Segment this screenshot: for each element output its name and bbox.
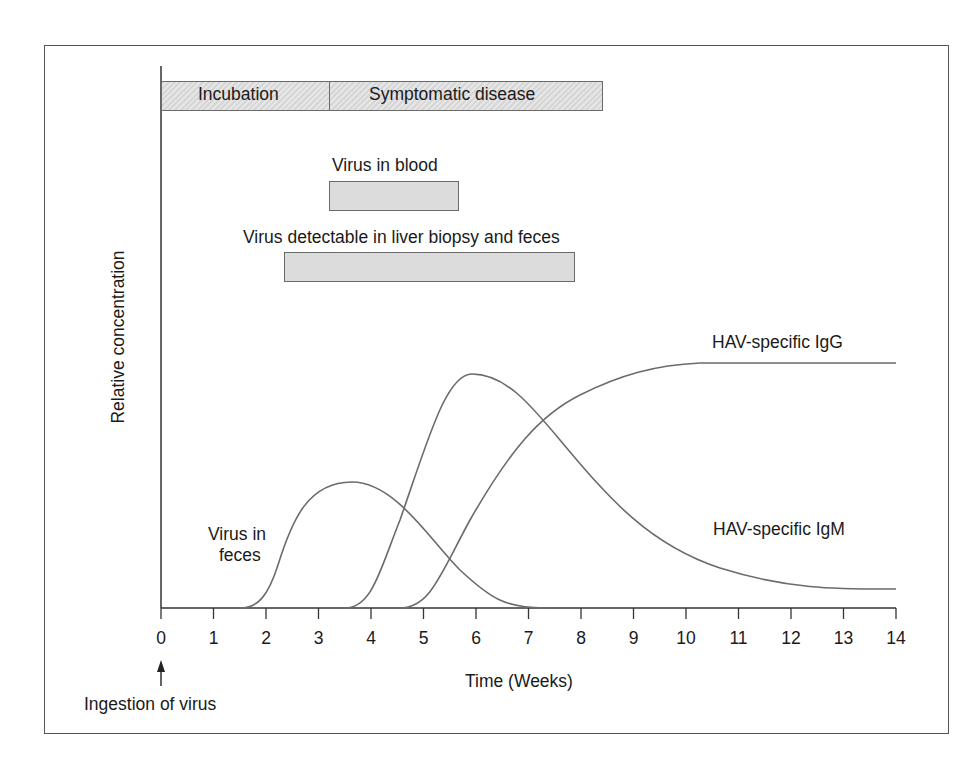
chart-canvas <box>0 0 979 763</box>
symptomatic-disease-label: Symptomatic disease <box>369 86 535 104</box>
virus-in-feces-curve <box>240 482 545 608</box>
x-tick-label: 11 <box>729 630 747 648</box>
x-tick-label: 14 <box>886 630 905 648</box>
virus-in-feces-label-line2: feces <box>219 547 261 565</box>
x-tick-label: 9 <box>629 630 639 648</box>
igm-curve <box>345 374 896 608</box>
x-tick-label: 1 <box>209 630 219 648</box>
virus-in-blood-label: Virus in blood <box>332 157 438 175</box>
x-tick-label: 4 <box>366 630 376 648</box>
x-tick-label: 8 <box>576 630 586 648</box>
incubation-label: Incubation <box>198 86 279 104</box>
x-axis-label: Time (Weeks) <box>465 673 573 691</box>
igm-label: HAV-specific IgM <box>713 521 845 539</box>
x-tick-label: 3 <box>314 630 324 648</box>
x-tick-label: 10 <box>676 630 695 648</box>
virus-in-feces-label-line1: Virus in <box>208 526 266 544</box>
ingestion-arrow-icon <box>157 660 165 672</box>
x-tick-label: 2 <box>261 630 271 648</box>
x-tick-label: 13 <box>834 630 853 648</box>
ingestion-label: Ingestion of virus <box>84 696 216 714</box>
x-tick-label: 5 <box>419 630 429 648</box>
x-tick-label: 7 <box>524 630 534 648</box>
y-axis-label: Relative concentration <box>108 250 129 423</box>
x-tick-label: 0 <box>156 630 166 648</box>
liver-biopsy-feces-label: Virus detectable in liver biopsy and fec… <box>243 229 560 247</box>
igg-label: HAV-specific IgG <box>712 334 843 352</box>
x-axis-ticks <box>161 608 896 619</box>
liver-biopsy-feces-bar <box>284 252 575 282</box>
igg-curve <box>400 363 896 608</box>
x-tick-label: 6 <box>471 630 481 648</box>
x-tick-label: 12 <box>781 630 800 648</box>
virus-in-blood-bar <box>329 181 459 211</box>
